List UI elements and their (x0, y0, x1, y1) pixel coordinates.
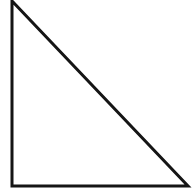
right-triangle-svg (0, 0, 192, 195)
canvas-background (0, 0, 192, 195)
figure-canvas: Outline drawing of a right triangle with… (0, 0, 192, 195)
